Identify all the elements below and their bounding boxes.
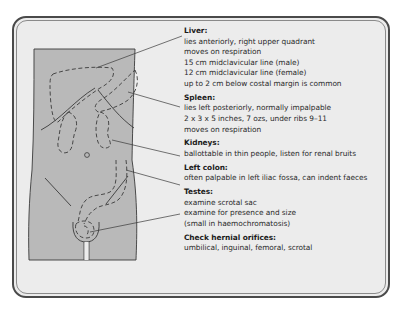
spleen-heading: Spleen:	[184, 93, 389, 104]
liver-note: lies anteriorly, right upper quadrant	[184, 37, 389, 48]
testes-note: examine scrotal sac	[184, 198, 389, 209]
testes-note: examine for presence and size	[184, 208, 389, 219]
left-colon-note: often palpable in left iliac fossa, can …	[184, 173, 389, 184]
spleen-note: moves on respiration	[184, 125, 389, 136]
kidneys-heading: Kidneys:	[184, 138, 389, 149]
kidneys-note: ballottable in thin people, listen for r…	[184, 149, 389, 160]
hernial-orifices-heading: Check hernial orifices:	[184, 233, 389, 244]
liver-note: up to 2 cm below costal margin is common	[184, 79, 389, 90]
liver-note: moves on respiration	[184, 47, 389, 58]
liver-section: Liver: lies anteriorly, right upper quad…	[184, 26, 389, 90]
inner-thigh-gap	[85, 242, 89, 260]
testes-section: Testes: examine scrotal sac examine for …	[184, 187, 389, 229]
spleen-section: Spleen: lies left posteriorly, normally …	[184, 93, 389, 135]
liver-note: 12 cm midclavicular line (female)	[184, 68, 389, 79]
left-colon-heading: Left colon:	[184, 163, 389, 174]
kidneys-section: Kidneys: ballottable in thin people, lis…	[184, 138, 389, 159]
liver-note: 15 cm midclavicular line (male)	[184, 58, 389, 69]
hernial-orifices-section: Check hernial orifices: umbilical, ingui…	[184, 233, 389, 254]
hernial-orifices-note: umbilical, inguinal, femoral, scrotal	[184, 243, 389, 254]
liver-heading: Liver:	[184, 26, 389, 37]
testes-note: (small in haemochromatosis)	[184, 219, 389, 230]
spleen-note: 2 x 3 x 5 inches, 7 ozs, under ribs 9–11	[184, 114, 389, 125]
left-colon-section: Left colon: often palpable in left iliac…	[184, 163, 389, 184]
spleen-leader-line	[128, 92, 180, 107]
annotation-notes: Liver: lies anteriorly, right upper quad…	[184, 26, 389, 257]
spleen-note: lies left posteriorly, normally impalpab…	[184, 103, 389, 114]
testes-heading: Testes:	[184, 187, 389, 198]
